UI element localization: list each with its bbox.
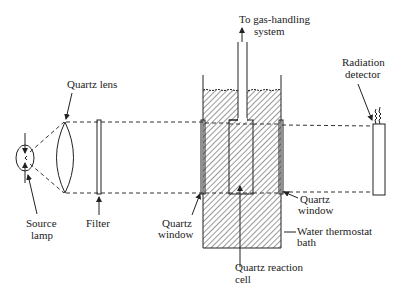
- water-bath-label-2: bath: [297, 236, 316, 248]
- quartz-window-left-label-2: window: [158, 228, 194, 240]
- filter-label: Filter: [86, 217, 110, 229]
- source-lamp-label-1: Source: [26, 217, 57, 229]
- source-lamp-label-2: lamp: [31, 229, 53, 241]
- leader-lines: [28, 84, 372, 267]
- quartz-window-right-label-2: window: [298, 204, 334, 216]
- gas-tube: [238, 28, 247, 122]
- radiation-detector-label-2: detector: [345, 68, 381, 80]
- apparatus-diagram: To gas-handling system Radiation detecto…: [0, 0, 402, 296]
- filter: [97, 120, 101, 194]
- radiation-detector-label-1: Radiation: [342, 56, 385, 68]
- radiation-detector: [373, 107, 385, 195]
- gas-handling-label-2: system: [254, 25, 285, 37]
- gas-handling-label-1: To gas-handling: [239, 13, 311, 25]
- reaction-cell-label-1: Quartz reaction: [235, 261, 304, 273]
- quartz-lens-label: Quartz lens: [67, 78, 117, 90]
- reaction-cell-label-2: cell: [235, 273, 251, 285]
- quartz-lens: [57, 122, 74, 193]
- source-lamp: [16, 133, 34, 183]
